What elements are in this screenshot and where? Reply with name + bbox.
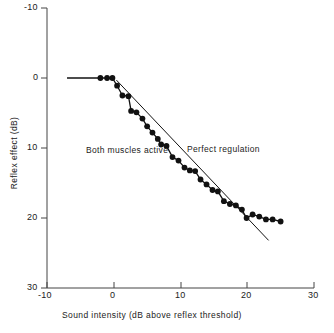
data-series-layer <box>67 75 284 240</box>
data-point <box>227 201 233 207</box>
data-point <box>120 93 126 99</box>
data-point <box>256 214 262 220</box>
data-point <box>192 168 198 174</box>
data-point <box>263 217 269 223</box>
data-point <box>221 198 227 204</box>
data-point <box>150 130 156 136</box>
y-tick-label-20: 20 <box>27 212 38 222</box>
x-axis-title: Sound intensity (dB above reflex thresho… <box>62 310 242 320</box>
data-point <box>176 158 182 164</box>
both-muscles-active-label: Both muscles active <box>86 145 168 155</box>
chart-canvas <box>0 0 334 333</box>
data-point <box>270 217 276 223</box>
y-axis-ticks <box>41 8 47 288</box>
data-point <box>140 116 146 122</box>
reflex-effect-chart: -10 0 10 20 30 -10 0 10 20 30 Sound inte… <box>0 0 334 333</box>
y-tick-label-neg10: -10 <box>24 2 38 12</box>
data-point <box>128 108 134 114</box>
data-point <box>239 207 245 213</box>
data-point <box>114 83 120 89</box>
y-tick-label-10: 10 <box>27 142 38 152</box>
data-point <box>198 177 204 183</box>
x-axis-ticks <box>47 282 314 288</box>
data-point <box>187 168 193 174</box>
data-point <box>204 182 210 188</box>
data-point <box>278 219 284 225</box>
x-tick-label-20: 20 <box>241 290 252 300</box>
data-point <box>250 212 256 218</box>
data-point <box>104 75 110 81</box>
data-point <box>210 187 216 193</box>
y-axis-title: Reflex effect (dB) <box>9 105 19 201</box>
y-tick-label-0: 0 <box>33 72 38 82</box>
data-point <box>155 136 161 142</box>
data-point <box>170 154 176 160</box>
x-tick-label-10: 10 <box>175 290 186 300</box>
data-point <box>182 165 188 171</box>
data-point <box>110 75 116 81</box>
x-tick-label-30: 30 <box>308 290 319 300</box>
data-point <box>134 109 140 115</box>
y-tick-label-30: 30 <box>27 282 38 292</box>
data-point <box>144 123 150 129</box>
x-tick-label-0: 0 <box>110 290 115 300</box>
data-point <box>126 93 132 99</box>
perfect-regulation-label: Perfect regulation <box>187 144 260 154</box>
data-point <box>233 203 239 209</box>
data-point <box>244 215 250 221</box>
x-tick-label-neg10: -10 <box>38 290 52 300</box>
data-point <box>215 189 221 195</box>
data-point <box>98 75 104 81</box>
